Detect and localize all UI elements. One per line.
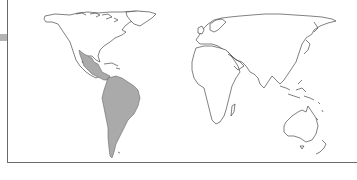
world-map bbox=[0, 0, 357, 180]
range-south-america bbox=[102, 76, 140, 158]
madagascar bbox=[231, 104, 235, 116]
japan bbox=[304, 40, 310, 54]
southeast-asia-islands bbox=[280, 80, 314, 100]
falkland-islands bbox=[118, 152, 120, 153]
greenland bbox=[126, 11, 156, 26]
new-zealand bbox=[316, 140, 326, 154]
pacific-islands bbox=[316, 102, 323, 120]
caribbean-islands bbox=[104, 63, 120, 69]
tasmania bbox=[300, 146, 304, 149]
australia bbox=[284, 106, 318, 142]
